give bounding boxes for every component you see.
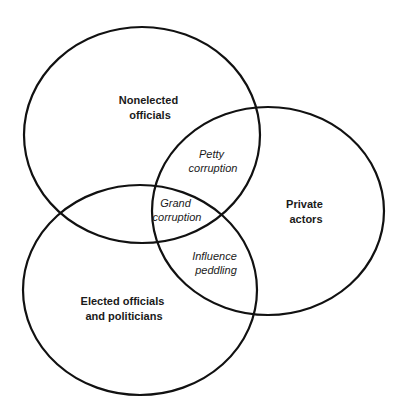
label-elected-officials: Elected officials and politicians — [81, 295, 168, 322]
circle-nonelected-officials — [24, 27, 260, 243]
label-private-actors: Private actors — [286, 198, 326, 225]
label-influence-peddling: Influence peddling — [192, 250, 240, 276]
venn-diagram: Nonelected officials Private actors Elec… — [0, 0, 403, 413]
label-grand-corruption: Grand corruption — [153, 197, 202, 223]
label-petty-corruption: Petty corruption — [189, 148, 238, 174]
label-nonelected-officials: Nonelected officials — [119, 94, 181, 121]
circle-elected-officials — [23, 185, 257, 395]
